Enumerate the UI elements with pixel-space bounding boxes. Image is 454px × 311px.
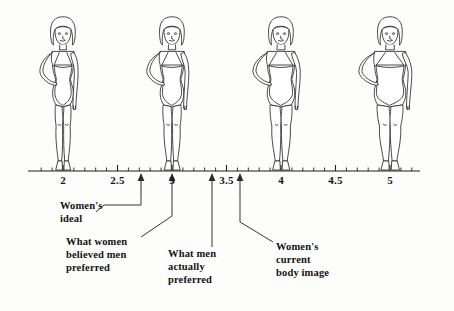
right-shoe (173, 161, 180, 170)
callout-label-what-men-actually-preferred: What men actually preferred (168, 247, 216, 287)
marker-leader-what-women-believed-men-preferred (141, 196, 172, 237)
axis-tick-label-2-5: 2.5 (110, 174, 124, 186)
right-eye (65, 33, 67, 35)
marker-what-men-actually-preferred[interactable] (209, 173, 216, 247)
face-outline (382, 27, 398, 45)
marker-arrowhead-womens-ideal (138, 173, 145, 181)
right-leg (281, 105, 292, 161)
silhouette-medium (253, 17, 300, 170)
right-shoe (391, 161, 399, 170)
left-shoe (381, 161, 389, 170)
right-leg (63, 105, 71, 161)
left-leg (377, 105, 390, 161)
callout-label-womens-current-body-image: Women's current body image (276, 240, 329, 280)
marker-leader-womens-current-body-image (240, 196, 273, 242)
axis-tick-label-4: 4 (278, 174, 284, 186)
neck (386, 45, 395, 50)
left-shoe (164, 161, 171, 170)
left-eye (385, 33, 387, 35)
left-leg (163, 105, 172, 161)
axis-group (28, 165, 420, 171)
torso-outline (51, 51, 74, 107)
left-leg (270, 105, 281, 161)
axis-tick-label-3: 3 (169, 174, 175, 186)
left-eye (276, 33, 278, 35)
neck (277, 45, 285, 50)
right-leg (172, 105, 181, 161)
left-shoe (273, 161, 281, 170)
right-eye (283, 33, 285, 35)
face-outline (164, 27, 180, 45)
axis-tick-label-5: 5 (387, 174, 393, 186)
silhouette-slimmest (40, 17, 78, 170)
figure-canvas: 22.533.544.55 Women's idealWhat women be… (0, 0, 454, 311)
torso-outline (159, 51, 185, 107)
marker-womens-current-body-image[interactable] (237, 173, 273, 242)
left-eye (58, 33, 60, 35)
neck (60, 45, 67, 50)
callout-label-what-women-believed-men-preferred: What women believed men preferred (66, 235, 127, 275)
right-eye (392, 33, 394, 35)
left-leg (55, 105, 63, 161)
left-eye (167, 33, 169, 35)
callout-label-womens-ideal: Women's ideal (60, 199, 102, 225)
axis-tick-label-3-5: 3.5 (219, 174, 233, 186)
silhouette-slim (147, 17, 189, 170)
neck (168, 45, 175, 50)
right-leg (390, 105, 403, 161)
axis-tick-label-4-5: 4.5 (328, 174, 342, 186)
axis-tick-label-2: 2 (60, 174, 66, 186)
right-shoe (64, 161, 71, 170)
face-outline (55, 27, 71, 45)
figures-group (40, 17, 412, 170)
marker-arrowhead-womens-current-body-image (237, 173, 244, 181)
left-shoe (56, 161, 63, 170)
silhouette-fuller (359, 17, 412, 170)
right-eye (174, 33, 176, 35)
marker-leader-womens-ideal (96, 196, 141, 212)
face-outline (273, 27, 289, 45)
right-shoe (282, 161, 290, 170)
marker-arrowhead-what-men-actually-preferred (209, 173, 216, 181)
